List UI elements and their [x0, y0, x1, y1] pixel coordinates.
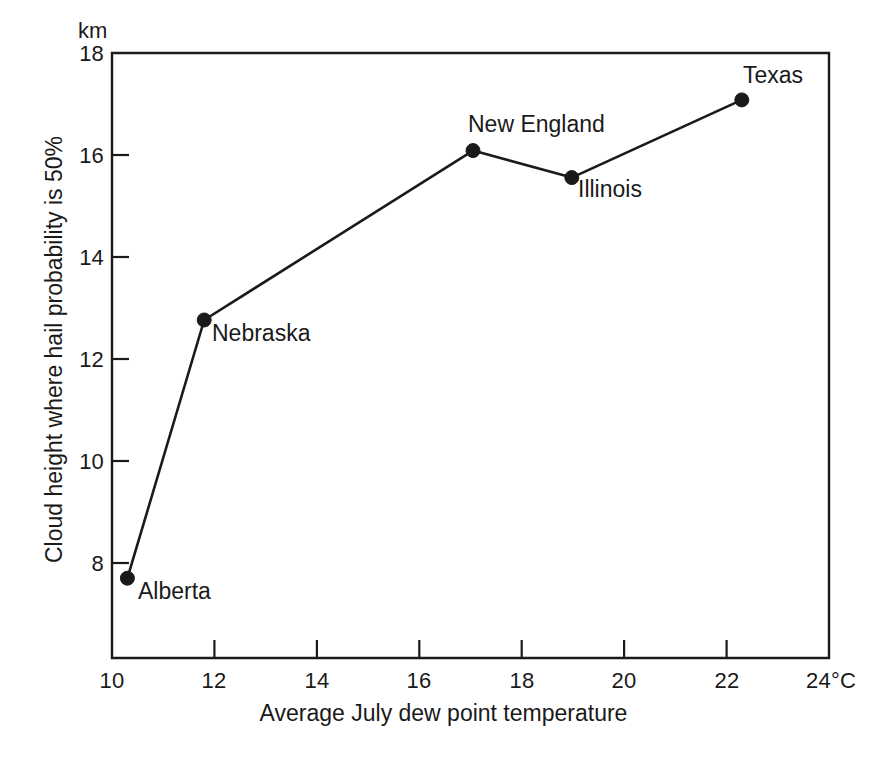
- x-tick-label-24: 24°C: [786, 668, 876, 694]
- y-tick-label-18: 18: [44, 41, 104, 67]
- plot-canvas: [0, 0, 887, 757]
- x-tick-label-20: 20: [584, 668, 664, 694]
- data-point-alberta: [120, 571, 134, 585]
- data-point-new-england: [466, 144, 480, 158]
- point-label-texas: Texas: [743, 62, 803, 89]
- point-label-new-england: New England: [468, 111, 605, 138]
- x-tick-label-10: 10: [72, 668, 152, 694]
- point-label-nebraska: Nebraska: [212, 320, 310, 347]
- x-tick-label-22: 22: [687, 668, 767, 694]
- x-tick-label-18: 18: [482, 668, 562, 694]
- x-tick-label-14: 14: [277, 668, 357, 694]
- data-point-nebraska: [197, 313, 211, 327]
- data-point-texas: [735, 93, 749, 107]
- point-label-alberta: Alberta: [138, 578, 211, 605]
- x-tick-label-12: 12: [174, 668, 254, 694]
- point-label-illinois: Illinois: [578, 176, 642, 203]
- y-axis-title: Cloud height where hail probability is 5…: [41, 90, 68, 610]
- data-point-illinois: [565, 171, 579, 185]
- x-axis-title: Average July dew point temperature: [0, 700, 887, 727]
- chart-figure: km 18 16 14 12 10 8 10 12 14 16 18 20 22…: [0, 0, 887, 757]
- x-tick-label-16: 16: [379, 668, 459, 694]
